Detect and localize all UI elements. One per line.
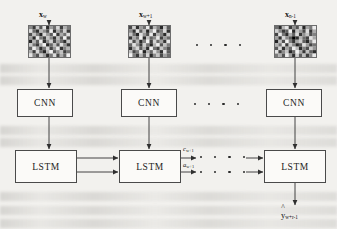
lstm-block-label: LSTM: [136, 162, 164, 172]
lstm-block-3: LSTM: [264, 150, 326, 183]
lstm-block-label: LSTM: [32, 162, 60, 172]
lstm-block-1: LSTM: [15, 150, 77, 183]
input-patch-2: [128, 25, 171, 58]
scan-bleed-band: [0, 219, 337, 228]
input-label-1: xw: [39, 10, 47, 19]
scan-bleed-band: [0, 192, 337, 201]
cnn-block-2: CNN: [121, 89, 177, 117]
input-label-3: xn-1: [285, 10, 296, 19]
cnn-block-label: CNN: [283, 98, 305, 108]
cnn-block-label: CNN: [138, 98, 160, 108]
lstm-block-label: LSTM: [281, 162, 309, 172]
input-patch-3: [274, 25, 317, 58]
cnn-block-1: CNN: [17, 89, 73, 117]
ellipsis-lstm-hidden-row: [200, 171, 245, 173]
scan-bleed-band: [0, 138, 337, 147]
ellipsis-cnn-row: [194, 103, 239, 105]
ellipsis-lstm-cell-row: [200, 156, 245, 158]
scan-bleed-band: [0, 64, 337, 73]
hidden-state-label: aw+1: [183, 161, 194, 169]
output-label: yw+r-1: [281, 210, 298, 220]
scan-bleed-band: [0, 76, 337, 85]
scan-bleed-band: [0, 126, 337, 135]
input-label-2: xw+1: [139, 10, 152, 19]
cnn-block-3: CNN: [266, 89, 322, 117]
input-patch-1: [28, 25, 71, 58]
cell-state-label: cw+1: [183, 145, 194, 153]
cnn-block-label: CNN: [34, 98, 56, 108]
lstm-block-2: LSTM: [119, 150, 181, 183]
figure-canvas: xw xw+1 xn-1: [0, 0, 337, 229]
ellipsis-input-row: [196, 44, 241, 46]
output-hat-symbol: y: [281, 210, 285, 220]
